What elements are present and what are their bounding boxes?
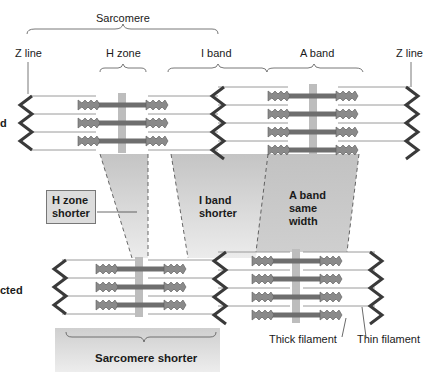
- a-band-label: A band: [300, 47, 334, 59]
- relaxed-sarcomere-left: [20, 87, 218, 153]
- h-zone-shorter-box: H zone shorter: [46, 190, 96, 224]
- thick-filament-label: Thick filament: [269, 333, 337, 345]
- i-band-shorter-label: I band shorter: [199, 194, 237, 220]
- h-zone-label: H zone: [106, 47, 141, 59]
- h-zone-bracket: [100, 64, 146, 72]
- i-band-label: I band: [201, 47, 232, 59]
- relaxed-label: d: [0, 117, 7, 129]
- sarcomere-label: Sarcomere: [96, 12, 150, 24]
- z-line: [370, 252, 382, 324]
- i-band-bracket: [168, 64, 267, 72]
- z-line: [20, 96, 32, 150]
- contracted-label: cted: [0, 284, 23, 296]
- sarcomere-bracket: [27, 24, 218, 34]
- thin-filament-label: Thin filament: [357, 333, 420, 345]
- sarcomere-shorter-label: Sarcomere shorter: [95, 352, 197, 364]
- a-band-same-width-label: A band same width: [289, 189, 326, 228]
- z-line-left-label: Z line: [15, 47, 42, 59]
- z-line: [54, 260, 66, 314]
- contracted-sarcomere-right: [214, 249, 382, 324]
- z-line-right-label: Z line: [396, 47, 423, 59]
- a-band-bracket: [267, 64, 363, 72]
- sarcomere-shorter-panel: [55, 328, 220, 372]
- relaxed-sarcomere-right: [212, 84, 418, 159]
- h-zone-projection: [100, 154, 148, 258]
- z-line: [406, 87, 418, 159]
- contracted-sarcomere-left: [54, 257, 215, 317]
